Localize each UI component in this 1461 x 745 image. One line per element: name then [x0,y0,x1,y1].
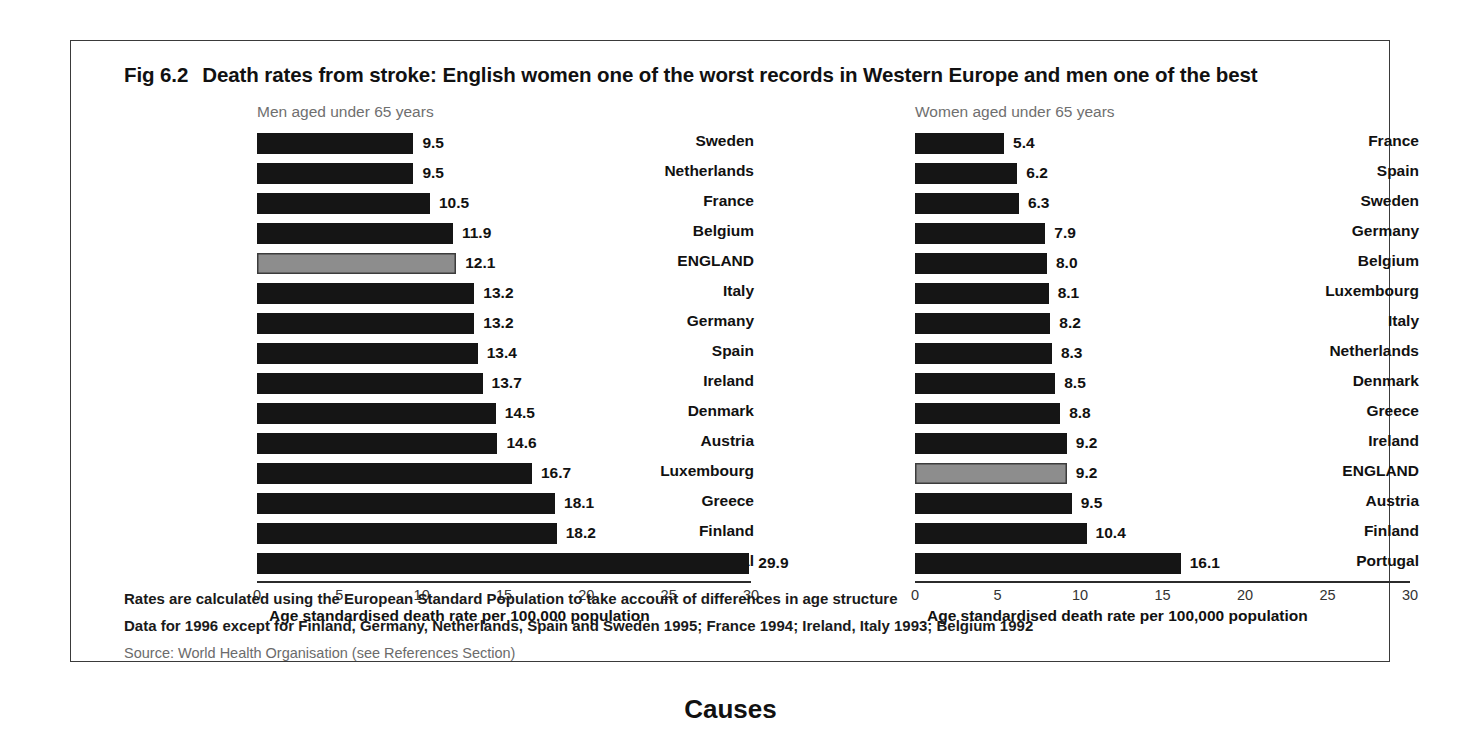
bar-value-label: 16.7 [541,464,571,482]
bar-row: Finland10.4 [789,519,1419,549]
bar-track: 6.3 [915,189,1419,219]
bar-row: Spain6.2 [789,159,1419,189]
bar-value-label: 5.4 [1013,134,1035,152]
bar [915,313,1050,334]
bar-value-label: 9.2 [1076,434,1098,452]
bar-row: Sweden9.5 [124,129,754,159]
bar [915,253,1047,274]
bar-value-label: 8.8 [1069,404,1091,422]
bar-track: 13.7 [257,369,754,399]
x-axis-tick-label: 0 [911,587,919,603]
bar [257,433,497,454]
bar-row: Ireland13.7 [124,369,754,399]
bar-value-label: 6.3 [1028,194,1050,212]
bar-track: 12.1 [257,249,754,279]
bar-value-label: 14.6 [506,434,536,452]
bar-row: Netherlands9.5 [124,159,754,189]
bar-track: 8.8 [915,399,1419,429]
figure-number: Fig 6.2 [124,63,188,86]
x-axis-tick-label: 15 [1154,587,1170,603]
footnote-source: Source: World Health Organisation (see R… [124,645,515,661]
bar [257,193,430,214]
bar-value-label: 29.9 [758,554,788,572]
bar-value-label: 8.3 [1061,344,1083,362]
bar-track: 13.4 [257,339,754,369]
bar-row: Luxembourg8.1 [789,279,1419,309]
chart-subtitle-men: Men aged under 65 years [257,103,434,121]
bar-row: Netherlands8.3 [789,339,1419,369]
bar-row: France5.4 [789,129,1419,159]
bar-highlighted [257,253,456,274]
bar-value-label: 13.7 [492,374,522,392]
x-axis-tick-label: 30 [1402,587,1418,603]
bar-track: 29.9 [257,549,754,579]
bar-value-label: 18.1 [564,494,594,512]
bar-row: Italy8.2 [789,309,1419,339]
footnote-method: Rates are calculated using the European … [124,590,898,607]
bar [257,133,413,154]
bar-row: Portugal16.1 [789,549,1419,579]
bar-track: 8.0 [915,249,1419,279]
bar-value-label: 8.5 [1064,374,1086,392]
figure-title-text: Death rates from stroke: English women o… [202,63,1257,86]
bar-value-label: 7.9 [1054,224,1076,242]
bar-track: 7.9 [915,219,1419,249]
bar-row: Belgium11.9 [124,219,754,249]
chart-subtitle-women: Women aged under 65 years [915,103,1115,121]
bar [257,313,474,334]
bar-row: Denmark14.5 [124,399,754,429]
bar [257,403,496,424]
bar-value-label: 13.2 [483,314,513,332]
figure-frame: Fig 6.2Death rates from stroke: English … [70,40,1390,662]
bar-value-label: 9.5 [422,164,444,182]
bar-value-label: 14.5 [505,404,535,422]
section-heading: Causes [0,694,1461,725]
x-axis-line [915,581,1410,583]
bar [257,373,483,394]
bar [257,343,478,364]
x-axis-line [257,581,751,583]
bar [915,523,1087,544]
bar [915,403,1060,424]
bar-track: 14.6 [257,429,754,459]
bar-highlighted [915,463,1067,484]
bar [257,553,749,574]
bar-track: 9.5 [915,489,1419,519]
bar-row: Austria9.5 [789,489,1419,519]
bar [257,463,532,484]
bar-track: 10.4 [915,519,1419,549]
bar-value-label: 13.2 [483,284,513,302]
bar-track: 9.5 [257,129,754,159]
plot-area-men: Sweden9.5Netherlands9.5France10.5Belgium… [124,129,754,561]
x-axis-tick-label: 10 [1072,587,1088,603]
bar-value-label: 10.4 [1096,524,1126,542]
bar [915,373,1055,394]
bar-row: Portugal29.9 [124,549,754,579]
bar-track: 9.5 [257,159,754,189]
bar [915,223,1045,244]
bar-row: Austria14.6 [124,429,754,459]
bar-row: France10.5 [124,189,754,219]
bar [257,283,474,304]
bar [915,493,1072,514]
bar-track: 18.1 [257,489,754,519]
bar-track: 6.2 [915,159,1419,189]
bar [915,553,1181,574]
bar-value-label: 8.1 [1058,284,1080,302]
bar-value-label: 12.1 [465,254,495,272]
bar-value-label: 9.5 [1081,494,1103,512]
bar [915,433,1067,454]
bar-row: ENGLAND9.2 [789,459,1419,489]
bar [257,223,453,244]
plot-area-women: France5.4Spain6.2Sweden6.3Germany7.9Belg… [789,129,1419,561]
bar [915,343,1052,364]
x-axis-tick-label: 25 [1319,587,1335,603]
bar [915,133,1004,154]
bar [915,193,1019,214]
bar-track: 11.9 [257,219,754,249]
bar-track: 14.5 [257,399,754,429]
bar [915,163,1017,184]
bar-value-label: 11.9 [462,224,491,242]
x-axis-tick-label: 5 [993,587,1001,603]
bar-row: Greece18.1 [124,489,754,519]
